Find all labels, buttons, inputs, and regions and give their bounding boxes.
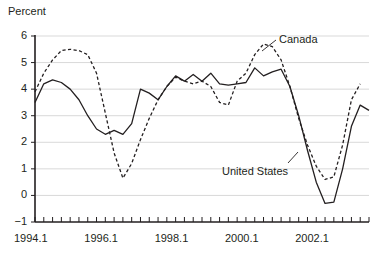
x-axis-tick-label: 2002.1 <box>295 232 329 244</box>
leader-line-canada <box>262 40 276 51</box>
x-axis-tick-label: 2000.1 <box>225 232 259 244</box>
chart-plot-area <box>0 0 386 266</box>
y-axis-tick-label: 6 <box>5 29 27 41</box>
series-line-united-states <box>35 68 369 204</box>
y-axis-tick-label: 0 <box>5 188 27 200</box>
x-axis-tick-label: 1998.1 <box>155 232 189 244</box>
series-label-united-states: United States <box>222 165 288 177</box>
chart-container: Percent 6543210−1 1994.11996.11998.12000… <box>0 0 386 266</box>
y-axis-tick-label: 4 <box>5 82 27 94</box>
series-label-canada: Canada <box>279 33 318 45</box>
series-line-canada <box>35 44 360 180</box>
y-axis-tick-label: 2 <box>5 135 27 147</box>
y-axis-tick-label: 3 <box>5 109 27 121</box>
y-axis-tick-label: −1 <box>5 215 27 227</box>
leader-line-united-states <box>288 152 298 163</box>
x-axis-tick-label: 1994.1 <box>14 232 48 244</box>
y-axis-tick-label: 1 <box>5 162 27 174</box>
x-axis-tick-label: 1996.1 <box>84 232 118 244</box>
y-axis-tick-label: 5 <box>5 56 27 68</box>
